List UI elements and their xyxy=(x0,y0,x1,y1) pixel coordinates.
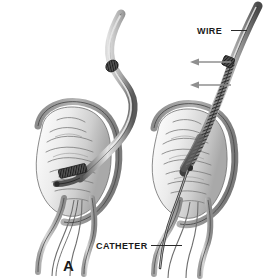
catheter-label: CATHETER xyxy=(96,241,148,251)
panel-letter: A xyxy=(63,257,74,274)
wire-label: WIRE xyxy=(197,26,222,36)
left-catheter-tip-opening xyxy=(54,181,59,186)
medical-figure: WIRE CATHETER A xyxy=(0,0,269,280)
illustration-canvas: WIRE CATHETER A xyxy=(0,0,269,280)
